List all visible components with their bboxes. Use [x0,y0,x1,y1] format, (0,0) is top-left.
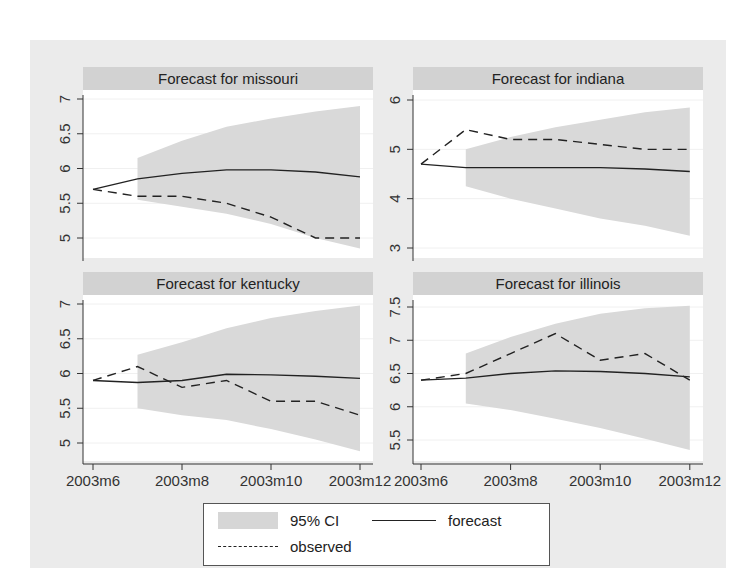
legend: 95% CI forecast observed [203,503,550,566]
x-tick-label: 2003m8 [155,472,209,489]
panel-illinois: Forecast for illinois5.566.577.52003m620… [386,272,721,489]
y-tick-label: 7 [56,300,73,308]
y-tick-label: 5.5 [386,430,403,451]
y-tick-label: 3 [386,244,403,252]
y-tick-label: 7.5 [386,297,403,318]
x-tick-label: 2003m6 [394,472,448,489]
y-tick-label: 5.5 [56,193,73,214]
forecast-swatch [372,520,436,521]
y-tick-label: 6.5 [56,123,73,144]
y-tick-label: 5 [386,145,403,153]
x-tick-label: 2003m10 [240,472,303,489]
y-tick-label: 6.5 [386,363,403,384]
y-tick-label: 6 [386,96,403,104]
x-tick-label: 2003m12 [329,472,392,489]
observed-swatch [218,546,278,547]
y-tick-label: 7 [386,336,403,344]
x-tick-label: 2003m12 [659,472,722,489]
panel-missouri: Forecast for missouri55.566.57 [56,67,373,261]
panel-title: Forecast for kentucky [156,275,300,292]
forecast-chart-grid: Forecast for missouri55.566.57Forecast f… [0,0,742,568]
y-tick-label: 5 [56,439,73,447]
legend-forecast-label: forecast [448,512,501,529]
panel-title: Forecast for indiana [492,70,625,87]
y-tick-label: 7 [56,95,73,103]
ci-swatch [218,512,278,529]
y-tick-label: 6 [56,164,73,172]
panel-title: Forecast for missouri [158,70,298,87]
y-tick-label: 5.5 [56,398,73,419]
x-tick-label: 2003m8 [483,472,537,489]
legend-item-forecast: forecast [372,512,501,529]
legend-ci-label: 95% CI [290,512,339,529]
y-tick-label: 5 [56,234,73,242]
y-tick-label: 6 [56,369,73,377]
y-tick-label: 6.5 [56,328,73,349]
legend-item-observed: observed [218,538,352,555]
panel-kentucky: Forecast for kentucky55.566.572003m62003… [56,272,391,489]
x-tick-label: 2003m10 [569,472,632,489]
y-tick-label: 4 [386,194,403,202]
legend-observed-label: observed [290,538,352,555]
y-tick-label: 6 [386,403,403,411]
legend-item-ci: 95% CI [218,512,339,529]
x-tick-label: 2003m6 [66,472,120,489]
panel-indiana: Forecast for indiana3456 [386,67,703,261]
panel-title: Forecast for illinois [495,275,620,292]
